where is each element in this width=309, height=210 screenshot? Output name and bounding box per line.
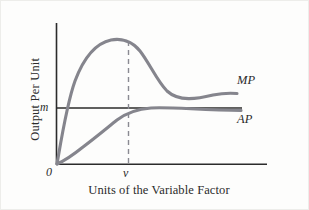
series-curve-ap bbox=[57, 108, 241, 164]
origin-label: 0 bbox=[46, 166, 52, 178]
y-axis-title: Output Per Unit bbox=[29, 39, 42, 159]
series-label-ap: AP bbox=[237, 113, 252, 126]
series-label-mp: MP bbox=[237, 74, 255, 87]
chart-figure: Output Per Unit Units of the Variable Fa… bbox=[0, 0, 309, 210]
x-axis-title: Units of the Variable Factor bbox=[69, 184, 249, 197]
y-tick-label-m: m bbox=[40, 102, 48, 114]
x-tick-label-v: v bbox=[123, 167, 128, 179]
